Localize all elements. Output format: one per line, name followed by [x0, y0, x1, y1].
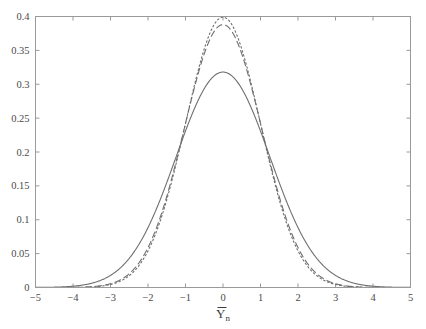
x-tick-label: −4: [67, 292, 79, 303]
y-tick-label: 0.1: [16, 214, 29, 225]
y-tick-label: 0.3: [16, 79, 29, 90]
x-tick-label: −5: [30, 292, 41, 303]
x-tick-label: −3: [105, 292, 116, 303]
plot-canvas: 00.050.10.150.20.250.30.350.4 −5−4−3−2−1…: [0, 0, 426, 329]
x-tick-label: 4: [370, 292, 376, 303]
figure-background: [0, 0, 426, 329]
y-tick-label: 0.05: [11, 248, 29, 259]
x-tick-label: 1: [258, 292, 263, 303]
x-tick-label: 0: [220, 292, 225, 303]
x-tick-label: −1: [180, 292, 191, 303]
y-tick-label: 0.15: [11, 180, 29, 191]
y-tick-label: 0.2: [16, 147, 29, 158]
x-tick-label: 3: [333, 292, 338, 303]
y-tick-label: 0: [24, 282, 29, 293]
y-tick-label: 0.4: [16, 11, 30, 22]
x-tick-label: 2: [295, 292, 300, 303]
y-tick-label: 0.35: [11, 45, 29, 56]
x-tick-label: −2: [142, 292, 153, 303]
density-plot-figure: 00.050.10.150.20.250.30.350.4 −5−4−3−2−1…: [0, 0, 426, 329]
x-tick-label: 5: [408, 292, 413, 303]
y-tick-label: 0.25: [11, 113, 29, 124]
x-axis-title-subscript: n: [225, 313, 230, 323]
